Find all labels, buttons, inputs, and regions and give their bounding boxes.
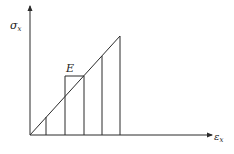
stress-strain-diagram: σx εx E — [0, 0, 234, 154]
stress-strain-line — [30, 36, 120, 135]
x-axis-label: εx — [214, 131, 223, 144]
box-e-label: E — [65, 62, 74, 75]
y-axis-label: σx — [10, 19, 22, 33]
